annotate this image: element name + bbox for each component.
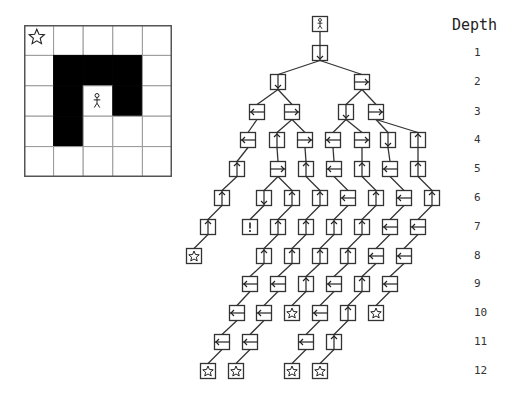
tree-edge <box>248 120 257 133</box>
tree-edge <box>333 120 346 133</box>
tree-node-left <box>250 105 265 120</box>
tree-edge <box>194 235 208 249</box>
tree-edge <box>278 206 292 220</box>
tree-node-right <box>369 105 384 120</box>
tree-edge <box>362 264 376 277</box>
tree-node-deadend <box>243 220 258 235</box>
tree-edge <box>362 177 376 191</box>
tree-edge <box>264 292 278 306</box>
tree-node-up <box>355 277 370 292</box>
tree-edge <box>390 264 404 277</box>
tree-edge <box>222 177 237 191</box>
tree-edge <box>362 206 376 220</box>
tree-node-left <box>397 249 412 264</box>
tree-edge <box>362 90 376 105</box>
tree-node-up <box>341 306 356 321</box>
tree-edge <box>236 350 250 364</box>
tree-edge <box>306 321 320 335</box>
tree-edge <box>334 321 348 335</box>
tree-edge <box>278 90 292 105</box>
tree-edge <box>376 292 390 306</box>
exclamation-icon <box>249 223 251 233</box>
tree-node-up <box>313 191 328 206</box>
tree-node-up <box>285 191 300 206</box>
tree-edge <box>418 206 432 220</box>
tree-node-left <box>257 306 272 321</box>
tree-edge <box>250 264 264 277</box>
tree-edge <box>257 90 278 105</box>
tree-node-up <box>327 220 342 235</box>
tree-edge <box>306 264 320 277</box>
tree-node-right <box>298 133 313 148</box>
tree-node-goal <box>229 364 244 379</box>
tree-edge <box>346 90 362 105</box>
tree-edge <box>334 206 348 220</box>
tree-node-up <box>201 220 216 235</box>
tree-edge <box>264 177 278 191</box>
tree-node-left <box>383 220 398 235</box>
search-tree <box>0 0 521 404</box>
tree-node-up <box>369 191 384 206</box>
tree-edge <box>250 321 264 335</box>
tree-edge <box>348 235 362 249</box>
tree-edge <box>278 61 320 75</box>
tree-node-right <box>285 105 300 120</box>
tree-node-goal <box>313 364 328 379</box>
tree-node-left <box>215 335 230 350</box>
tree-edge <box>334 264 348 277</box>
tree-edge <box>305 148 306 162</box>
tree-edge <box>237 148 248 162</box>
tree-node-left <box>411 220 426 235</box>
tree-edge <box>390 206 404 220</box>
tree-node-up <box>355 220 370 235</box>
tree-node-left <box>397 191 412 206</box>
tree-node-goal <box>285 364 300 379</box>
tree-node-right <box>355 75 370 90</box>
tree-node-right <box>355 133 370 148</box>
tree-edge <box>278 177 292 191</box>
tree-node-left <box>243 277 258 292</box>
tree-edge <box>222 321 237 335</box>
depth-label: 6 <box>474 191 504 204</box>
tree-node-left <box>271 277 286 292</box>
depth-label: 12 <box>474 364 504 377</box>
depth-label: 8 <box>474 249 504 262</box>
tree-edge <box>320 235 334 249</box>
tree-edge <box>346 120 362 133</box>
tree-edge <box>292 235 306 249</box>
tree-node-goal <box>369 306 384 321</box>
tree-node-up <box>425 191 440 206</box>
tree-node-up <box>411 162 426 177</box>
tree-node-left <box>241 133 256 148</box>
tree-edge <box>404 235 418 249</box>
tree-node-left <box>326 133 341 148</box>
depth-label: 1 <box>474 46 504 59</box>
tree-node-right <box>271 162 286 177</box>
tree-node-left <box>243 335 258 350</box>
tree-edge <box>208 350 222 364</box>
tree-edge <box>237 292 250 306</box>
depth-label: 11 <box>474 335 504 348</box>
tree-node-down <box>271 75 286 90</box>
tree-edge <box>292 350 306 364</box>
tree-node-up <box>215 191 230 206</box>
tree-edge <box>334 177 348 191</box>
depth-header: Depth <box>452 16 497 34</box>
tree-edge <box>277 120 292 133</box>
tree-node-up <box>257 249 272 264</box>
depth-label: 2 <box>474 75 504 88</box>
tree-node-left <box>327 277 342 292</box>
depth-label: 7 <box>474 220 504 233</box>
tree-node-up <box>285 249 300 264</box>
tree-edge <box>250 206 264 220</box>
depth-label: 4 <box>474 133 504 146</box>
tree-node-up <box>411 133 426 148</box>
tree-edge <box>306 177 320 191</box>
tree-edge <box>278 264 292 277</box>
depth-label: 3 <box>474 105 504 118</box>
tree-node-goal <box>285 306 300 321</box>
tree-edge <box>418 177 432 191</box>
depth-label: 9 <box>474 277 504 290</box>
tree-node-down <box>313 46 328 61</box>
tree-node-up <box>271 220 286 235</box>
